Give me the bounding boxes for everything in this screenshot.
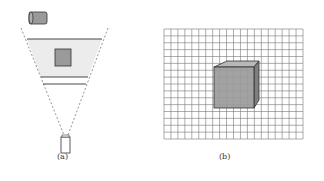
caption-b: (b) <box>219 152 230 161</box>
caption-a: (a) <box>57 152 68 161</box>
projector-icon <box>29 12 47 24</box>
diagram-canvas <box>0 0 324 181</box>
cube <box>214 61 259 108</box>
figure: (a) (b) <box>0 0 324 181</box>
camera-icon <box>61 135 70 153</box>
panel-a <box>21 12 108 153</box>
object-square <box>55 49 71 66</box>
panel-b <box>164 29 303 139</box>
